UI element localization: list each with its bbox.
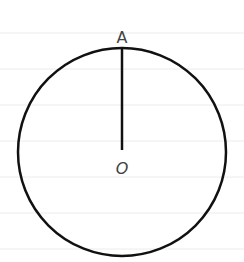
point-label-O: O bbox=[116, 159, 129, 178]
circle-diagram: A O bbox=[0, 0, 244, 262]
diagram-canvas: A O bbox=[0, 0, 244, 262]
point-label-A: A bbox=[117, 28, 128, 47]
